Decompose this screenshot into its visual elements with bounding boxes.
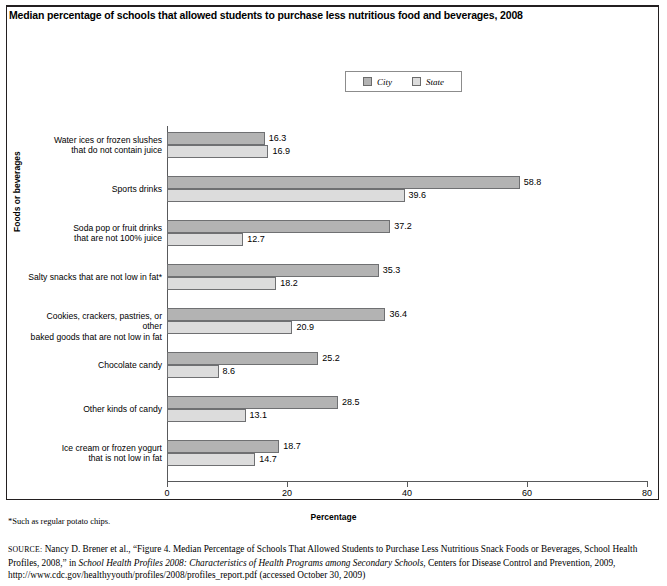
bar-city[interactable]	[167, 220, 390, 233]
category-label: Sports drinks	[112, 184, 162, 195]
bar-row: 14.7	[167, 453, 647, 466]
x-axis-tick	[167, 482, 168, 487]
bar-row: 35.3	[167, 264, 647, 277]
x-axis-tick	[407, 482, 408, 487]
bar-state[interactable]	[167, 277, 276, 290]
legend-swatch-state	[412, 77, 421, 86]
figure-source: SOURCE: Nancy D. Brener et al., “Figure …	[8, 543, 658, 582]
figure-title: Median percentage of schools that allowe…	[9, 9, 639, 22]
legend-entry-state: State	[412, 77, 444, 87]
category-label: Salty snacks that are not low in fat*	[28, 272, 162, 283]
bar-value-label: 12.7	[247, 233, 265, 246]
bar-city[interactable]	[167, 264, 379, 277]
bar-value-label: 37.2	[394, 220, 412, 233]
source-prefix: SOURCE:	[8, 545, 42, 554]
bar-value-label: 35.3	[383, 264, 401, 277]
bar-row: 25.2	[167, 352, 647, 365]
x-axis-tick-label: 0	[164, 488, 169, 498]
category-label: Soda pop or fruit drinks that are not 10…	[73, 223, 162, 244]
bar-row: 58.8	[167, 176, 647, 189]
bar-row: 39.6	[167, 189, 647, 202]
bar-row: 16.3	[167, 132, 647, 145]
category-label: Other kinds of candy	[83, 404, 162, 415]
bar-state[interactable]	[167, 321, 292, 334]
x-axis-tick-label: 80	[642, 488, 652, 498]
bar-value-label: 28.5	[342, 396, 360, 409]
bar-value-label: 39.6	[409, 189, 427, 202]
legend-swatch-city	[363, 77, 372, 86]
bar-row: 16.9	[167, 145, 647, 158]
category-label: Ice cream or frozen yogurt that is not l…	[62, 443, 162, 464]
bar-row: 8.6	[167, 365, 647, 378]
bar-value-label: 16.9	[272, 145, 290, 158]
bar-city[interactable]	[167, 132, 265, 145]
x-axis-tick	[287, 482, 288, 487]
category-label: Cookies, crackers, pastries, or other ba…	[28, 311, 162, 343]
bar-value-label: 18.2	[280, 277, 298, 290]
legend-entry-city: City	[363, 77, 392, 87]
source-text-italic: School Health Profiles 2008: Characteris…	[79, 558, 424, 568]
bar-city[interactable]	[167, 396, 338, 409]
bar-row: 18.2	[167, 277, 647, 290]
legend-label-city: City	[377, 77, 392, 87]
category-label: Chocolate candy	[98, 360, 162, 371]
bar-value-label: 36.4	[389, 308, 407, 321]
figure-footnote: *Such as regular potato chips.	[8, 516, 110, 526]
legend-label-state: State	[426, 77, 444, 87]
bar-state[interactable]	[167, 409, 246, 422]
x-axis-tick-label: 60	[522, 488, 532, 498]
bar-value-label: 58.8	[524, 176, 542, 189]
y-axis-title: Foods or beverages	[12, 151, 22, 232]
bar-row: 28.5	[167, 396, 647, 409]
bar-state[interactable]	[167, 365, 219, 378]
x-axis-tick	[647, 482, 648, 487]
bar-value-label: 14.7	[259, 453, 277, 466]
bar-row: 37.2	[167, 220, 647, 233]
bar-city[interactable]	[167, 440, 279, 453]
bar-row: 13.1	[167, 409, 647, 422]
x-axis-tick-label: 20	[282, 488, 292, 498]
bar-row: 12.7	[167, 233, 647, 246]
bar-city[interactable]	[167, 176, 520, 189]
bar-value-label: 18.7	[283, 440, 301, 453]
plot-area: 16.316.958.839.637.212.735.318.236.420.9…	[167, 128, 647, 480]
bar-state[interactable]	[167, 453, 255, 466]
bar-state[interactable]	[167, 233, 243, 246]
bar-value-label: 20.9	[296, 321, 314, 334]
bar-value-label: 25.2	[322, 352, 340, 365]
bar-value-label: 13.1	[250, 409, 268, 422]
category-label: Water ices or frozen slushes that do not…	[54, 135, 162, 156]
bar-row: 20.9	[167, 321, 647, 334]
bar-city[interactable]	[167, 352, 318, 365]
x-axis-tick-label: 40	[402, 488, 412, 498]
bar-state[interactable]	[167, 145, 268, 158]
bar-value-label: 16.3	[269, 132, 287, 145]
bar-value-label: 8.6	[223, 365, 236, 378]
category-label-column: Water ices or frozen slushes that do not…	[28, 128, 162, 480]
x-axis-tick	[527, 482, 528, 487]
chart-legend: City State	[345, 71, 462, 92]
bar-city[interactable]	[167, 308, 385, 321]
bar-row: 18.7	[167, 440, 647, 453]
bar-state[interactable]	[167, 189, 405, 202]
bar-row: 36.4	[167, 308, 647, 321]
